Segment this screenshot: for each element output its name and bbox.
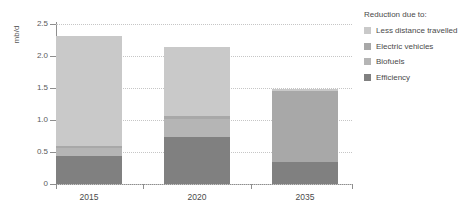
y-tick-label: 2.5	[26, 20, 48, 28]
x-tick-mark	[56, 184, 57, 189]
bar-group[interactable]	[56, 24, 122, 184]
bar-segment[interactable]	[164, 137, 230, 184]
legend-item[interactable]: Biofuels	[364, 57, 467, 66]
legend-item-label: Less distance travelled	[376, 26, 457, 35]
y-tick-label: 2.0	[26, 52, 48, 60]
legend-swatch-icon	[364, 74, 371, 81]
y-axis-label: mb/d	[12, 13, 21, 57]
bar-segment[interactable]	[56, 36, 122, 146]
legend-title: Reduction due to:	[364, 10, 467, 19]
bar-segment[interactable]	[56, 148, 122, 157]
x-tick-mark	[251, 184, 252, 189]
y-tick-label: 1.0	[26, 116, 48, 124]
y-tick-label: 1.5	[26, 84, 48, 92]
x-tick-mark	[143, 184, 144, 189]
bar-segment[interactable]	[164, 116, 230, 119]
legend-item[interactable]: Electric vehicles	[364, 42, 467, 51]
bar-segment[interactable]	[164, 47, 230, 116]
legend-item-label: Biofuels	[376, 57, 404, 66]
legend-item[interactable]: Less distance travelled	[364, 26, 467, 35]
x-tick-label: 2015	[49, 192, 129, 202]
gridline	[56, 184, 352, 185]
x-tick-label: 2020	[157, 192, 237, 202]
bar-group[interactable]	[272, 24, 338, 184]
x-tick-label: 2035	[265, 192, 345, 202]
chart-figure: mb/d 00.51.01.52.02.5 201520202035 Reduc…	[0, 0, 467, 219]
y-tick-label: 0.5	[26, 148, 48, 156]
legend-items: Less distance travelledElectric vehicles…	[364, 26, 467, 82]
legend-item-label: Efficiency	[376, 73, 410, 82]
bar-segment[interactable]	[272, 89, 338, 91]
x-tick-mark	[352, 184, 353, 189]
bar-segment[interactable]	[56, 146, 122, 148]
legend-swatch-icon	[364, 27, 371, 34]
legend-swatch-icon	[364, 58, 371, 65]
legend-swatch-icon	[364, 43, 371, 50]
plot-area	[56, 24, 352, 184]
bar-segment[interactable]	[272, 91, 338, 162]
chart-legend: Reduction due to: Less distance travelle…	[364, 10, 467, 88]
legend-item[interactable]: Efficiency	[364, 73, 467, 82]
bar-segment[interactable]	[272, 162, 338, 184]
bar-segment[interactable]	[164, 119, 230, 137]
bar-segment[interactable]	[56, 156, 122, 184]
y-tick-label: 0	[26, 180, 48, 188]
legend-item-label: Electric vehicles	[376, 42, 433, 51]
bar-group[interactable]	[164, 24, 230, 184]
